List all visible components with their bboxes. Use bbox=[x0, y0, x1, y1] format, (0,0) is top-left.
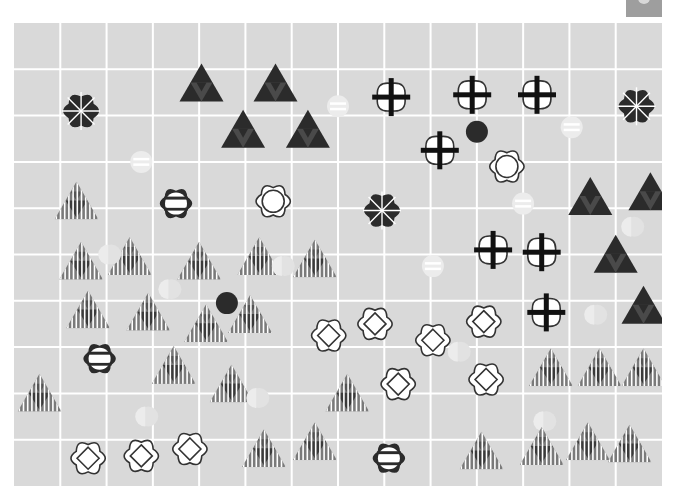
piece-white-cross-flower[interactable] bbox=[527, 293, 565, 331]
piece-dark-asterisk-flower[interactable] bbox=[62, 92, 100, 130]
piece-white-diamond-flower[interactable] bbox=[124, 440, 158, 471]
piece-white-ring-flower[interactable] bbox=[490, 151, 524, 182]
game-board[interactable] bbox=[14, 23, 662, 486]
piece-white-cross-flower[interactable] bbox=[372, 78, 410, 116]
piece-white-diamond-flower[interactable] bbox=[416, 325, 450, 356]
piece-dark-triangle[interactable] bbox=[622, 286, 663, 324]
piece-faint-half-circle[interactable] bbox=[158, 279, 181, 299]
piece-dark-dot[interactable] bbox=[466, 121, 488, 143]
piece-striped-triangle[interactable] bbox=[520, 427, 565, 465]
piece-white-diamond-flower[interactable] bbox=[381, 369, 415, 400]
piece-faint-striped-circle[interactable] bbox=[422, 255, 444, 277]
piece-dark-bar-flower[interactable] bbox=[373, 444, 405, 473]
board-canvas bbox=[14, 23, 662, 486]
piece-dark-bar-flower[interactable] bbox=[160, 189, 192, 218]
piece-striped-triangle[interactable] bbox=[177, 242, 222, 280]
piece-faint-striped-circle[interactable] bbox=[561, 116, 583, 138]
piece-faint-striped-circle[interactable] bbox=[512, 193, 534, 215]
piece-dark-asterisk-flower[interactable] bbox=[363, 192, 401, 230]
piece-white-diamond-flower[interactable] bbox=[469, 364, 503, 395]
piece-white-cross-flower[interactable] bbox=[523, 233, 561, 271]
piece-faint-half-circle[interactable] bbox=[98, 245, 121, 265]
corner-icon bbox=[638, 0, 650, 4]
corner-button[interactable] bbox=[626, 0, 662, 17]
piece-striped-triangle[interactable] bbox=[152, 346, 197, 384]
piece-white-diamond-flower[interactable] bbox=[173, 434, 207, 465]
piece-white-ring-flower[interactable] bbox=[256, 186, 290, 217]
piece-white-diamond-flower[interactable] bbox=[358, 308, 392, 339]
piece-white-diamond-flower[interactable] bbox=[71, 443, 105, 474]
piece-striped-triangle[interactable] bbox=[66, 290, 111, 328]
piece-striped-triangle[interactable] bbox=[126, 293, 171, 331]
piece-dark-triangle[interactable] bbox=[628, 172, 662, 210]
piece-faint-half-circle[interactable] bbox=[135, 407, 158, 427]
piece-faint-half-circle[interactable] bbox=[533, 411, 556, 431]
piece-white-cross-flower[interactable] bbox=[453, 76, 491, 114]
piece-faint-half-circle[interactable] bbox=[272, 256, 295, 276]
piece-striped-triangle[interactable] bbox=[59, 242, 104, 280]
piece-faint-striped-circle[interactable] bbox=[327, 95, 349, 117]
piece-white-diamond-flower[interactable] bbox=[312, 320, 346, 351]
piece-faint-half-circle[interactable] bbox=[584, 305, 607, 325]
piece-striped-triangle[interactable] bbox=[242, 429, 287, 467]
piece-white-cross-flower[interactable] bbox=[421, 131, 459, 169]
piece-striped-triangle[interactable] bbox=[293, 239, 338, 277]
piece-striped-triangle[interactable] bbox=[622, 348, 663, 386]
piece-striped-triangle[interactable] bbox=[293, 422, 338, 460]
piece-faint-half-circle[interactable] bbox=[246, 388, 269, 408]
piece-dark-dot[interactable] bbox=[216, 292, 238, 314]
piece-faint-striped-circle[interactable] bbox=[130, 151, 152, 173]
piece-dark-asterisk-flower[interactable] bbox=[618, 87, 656, 125]
piece-white-diamond-flower[interactable] bbox=[467, 306, 501, 337]
piece-striped-triangle[interactable] bbox=[460, 432, 505, 470]
piece-white-cross-flower[interactable] bbox=[474, 231, 512, 269]
piece-striped-triangle[interactable] bbox=[529, 348, 574, 386]
piece-striped-triangle[interactable] bbox=[566, 422, 611, 460]
piece-faint-half-circle[interactable] bbox=[621, 217, 644, 237]
piece-dark-triangle[interactable] bbox=[568, 177, 612, 215]
piece-faint-half-circle[interactable] bbox=[448, 342, 471, 362]
piece-dark-bar-flower[interactable] bbox=[83, 344, 115, 373]
piece-striped-triangle[interactable] bbox=[608, 425, 653, 463]
